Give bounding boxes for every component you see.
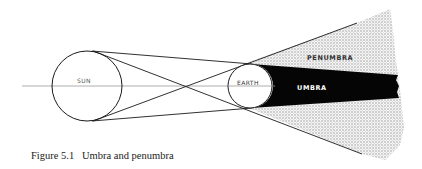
outer-tangent-bottom bbox=[92, 108, 252, 121]
figure-caption: Figure 5.1 Umbra and penumbra bbox=[31, 150, 174, 161]
earth-label: EARTH bbox=[237, 79, 259, 86]
penumbra-label: PENUMBRA bbox=[307, 54, 353, 62]
umbra-penumbra-diagram: SUN EARTH PENUMBRA UMBRA bbox=[0, 0, 422, 169]
umbra-label: UMBRA bbox=[297, 84, 327, 92]
sun-label: SUN bbox=[77, 77, 91, 84]
outer-tangent-top bbox=[92, 51, 252, 64]
